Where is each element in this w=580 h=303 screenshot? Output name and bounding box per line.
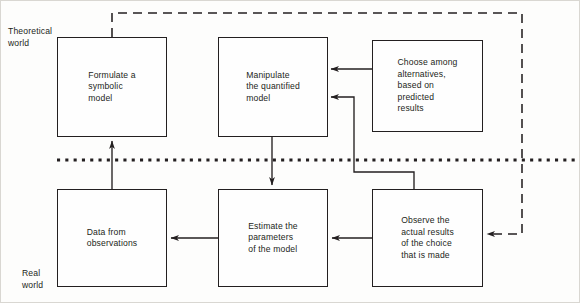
node-formulate-symbolic-model[interactable]: Formulate a symbolic model (57, 37, 167, 137)
diagram-canvas: Theoretical world Real world Formulate a… (0, 0, 580, 303)
node-label-manipulate-quantified-model: Manipulate the quantified model (246, 70, 300, 105)
zone-label-real-world: Real world (22, 268, 43, 291)
node-data-from-observations[interactable]: Data from observations (57, 189, 167, 287)
node-label-data-from-observations: Data from observations (87, 227, 138, 250)
node-observe-actual-results[interactable]: Observe the actual results of the choice… (372, 189, 483, 287)
node-choose-among-alternatives[interactable]: Choose among alternatives, based on pred… (372, 40, 483, 132)
zone-label-theoretical-world: Theoretical world (8, 26, 52, 49)
node-label-formulate-symbolic-model: Formulate a symbolic model (88, 70, 136, 105)
node-label-observe-actual-results: Observe the actual results of the choice… (401, 215, 454, 261)
node-manipulate-quantified-model[interactable]: Manipulate the quantified model (218, 37, 328, 137)
node-label-choose-among-alternatives: Choose among alternatives, based on pred… (397, 57, 457, 115)
node-estimate-parameters[interactable]: Estimate the parameters of the model (218, 189, 328, 287)
node-label-estimate-parameters: Estimate the parameters of the model (248, 221, 298, 256)
